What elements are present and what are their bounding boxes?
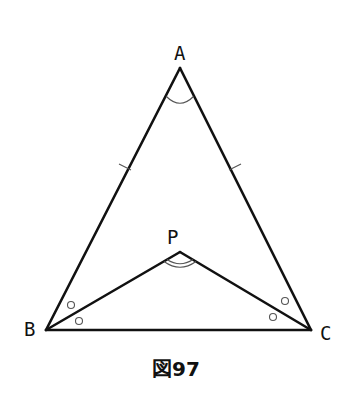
angle-arc-p-outer <box>164 262 196 268</box>
vertex-label-p: P <box>167 226 178 248</box>
figure-caption: 図97 <box>152 357 200 381</box>
geometry-diagram: A B C P 図97 <box>0 0 356 400</box>
angle-arc-p-inner <box>167 260 193 264</box>
angle-circle-c-lower <box>270 314 277 321</box>
vertex-label-a: A <box>174 42 186 64</box>
angle-circle-b-lower <box>76 318 83 325</box>
angle-circle-b-upper <box>68 302 75 309</box>
angle-circle-c-upper <box>282 298 289 305</box>
angle-arc-a <box>166 97 193 104</box>
vertex-label-c: C <box>320 322 331 344</box>
vertex-label-b: B <box>24 318 35 340</box>
